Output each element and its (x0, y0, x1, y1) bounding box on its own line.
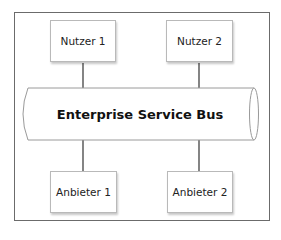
node-label: Nutzer 2 (177, 35, 222, 47)
node-nutzer-1: Nutzer 1 (50, 20, 116, 62)
node-label: Anbieter 2 (173, 186, 228, 198)
bus-label: Enterprise Service Bus (57, 107, 223, 122)
node-anbieter-1: Anbieter 1 (50, 171, 117, 213)
enterprise-service-bus: Enterprise Service Bus (28, 88, 252, 140)
node-anbieter-2: Anbieter 2 (167, 171, 233, 213)
node-label: Anbieter 1 (56, 186, 111, 198)
node-label: Nutzer 1 (61, 35, 106, 47)
node-nutzer-2: Nutzer 2 (166, 20, 233, 62)
